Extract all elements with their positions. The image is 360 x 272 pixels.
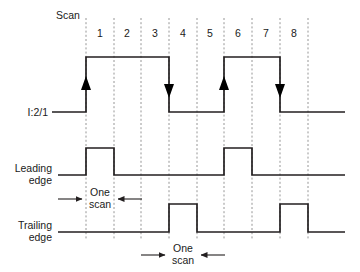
signal-label-leading-edge-line2: edge xyxy=(29,174,53,186)
scan-number-8: 8 xyxy=(291,27,297,39)
one-scan-label-trailing-line1: One xyxy=(173,242,193,254)
one-scan-label-leading-line1: One xyxy=(90,186,110,198)
scan-header-label: Scan xyxy=(56,9,80,21)
scan-number-2: 2 xyxy=(124,27,130,39)
one-scan-label-trailing-line2: scan xyxy=(172,254,194,266)
signal-label-i21: I:2/1 xyxy=(28,106,49,118)
scan-number-1: 1 xyxy=(97,27,103,39)
scan-number-7: 7 xyxy=(263,27,269,39)
timing-diagram: Scan 1 2 3 4 5 6 7 8 I:2/1 xyxy=(0,0,360,272)
diagram-background xyxy=(0,0,360,272)
scan-number-3: 3 xyxy=(152,27,158,39)
scan-number-5: 5 xyxy=(207,27,213,39)
one-scan-label-leading-line2: scan xyxy=(89,198,111,210)
timing-diagram-page: Scan 1 2 3 4 5 6 7 8 I:2/1 xyxy=(0,0,360,272)
signal-label-leading-edge-line1: Leading xyxy=(15,162,53,174)
signal-label-trailing-edge-line1: Trailing xyxy=(18,219,52,231)
signal-label-trailing-edge-line2: edge xyxy=(29,231,53,243)
scan-number-6: 6 xyxy=(235,27,241,39)
scan-number-4: 4 xyxy=(180,27,186,39)
